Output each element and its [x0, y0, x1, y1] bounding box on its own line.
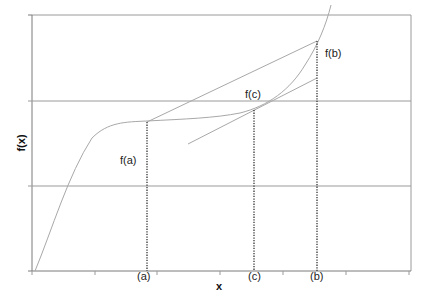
label-c: (c)	[248, 270, 261, 282]
label-fc: f(c)	[245, 88, 261, 100]
x-ticks	[32, 271, 409, 275]
x-axis-title: x	[216, 280, 222, 292]
label-fb: f(b)	[325, 47, 342, 59]
label-b: (b)	[310, 270, 323, 282]
y-axis-title: f(x)	[15, 134, 27, 151]
function-curve	[35, 5, 331, 271]
mvt-diagram	[0, 0, 426, 300]
secant-line	[147, 41, 317, 122]
label-a: (a)	[137, 270, 150, 282]
label-fa: f(a)	[120, 154, 137, 166]
